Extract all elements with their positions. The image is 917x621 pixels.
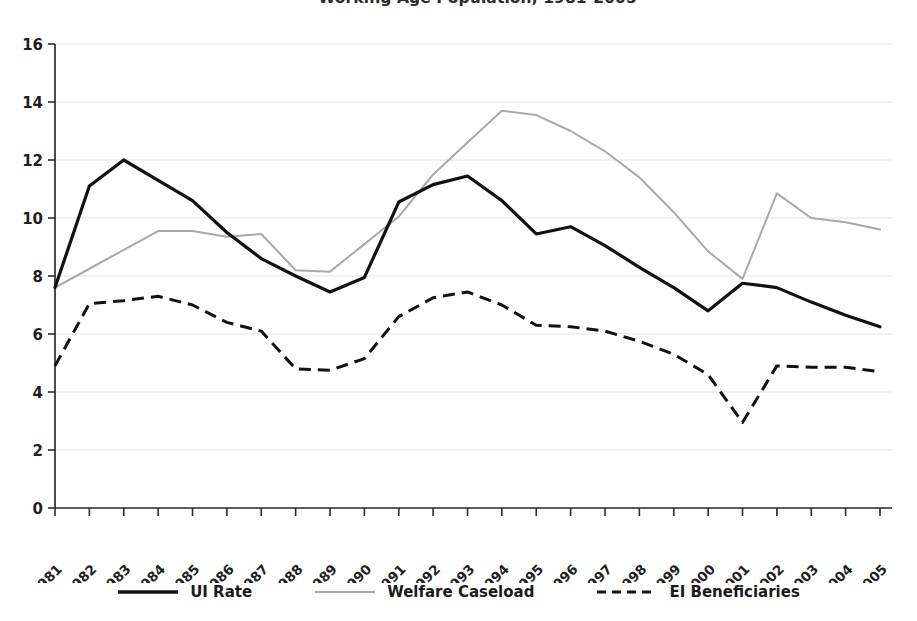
x-axis-tick-label: 1982: [62, 561, 100, 583]
legend-item-ui-rate: UI Rate: [117, 583, 252, 601]
x-axis-tick-label: 1986: [199, 561, 237, 583]
x-axis-tick-label: 2005: [852, 561, 890, 583]
x-axis-tick-label: 1999: [646, 561, 684, 583]
y-axis-tick-label: 10: [22, 210, 43, 228]
x-axis-tick-label: 2003: [783, 561, 821, 583]
x-axis-tick-label: 1994: [474, 561, 512, 583]
series-line-ei-beneficiaries: [55, 292, 880, 423]
y-axis-tick-label: 2: [33, 442, 43, 460]
x-axis-tick-label: 1997: [577, 561, 615, 583]
legend-label-ui-rate: UI Rate: [190, 583, 252, 601]
x-axis-tick-label: 1993: [440, 561, 478, 583]
x-axis-tick-label: 2001: [715, 561, 753, 583]
legend-label-welfare-caseload: Welfare Caseload: [387, 583, 534, 601]
x-axis-ticks: 1981198219831984198519861987198819891990…: [27, 508, 890, 583]
x-axis-tick-label: 2004: [818, 561, 856, 583]
x-axis-tick-label: 1989: [302, 561, 340, 583]
chart-legend: UI Rate Welfare Caseload EI Beneficiarie…: [0, 583, 917, 601]
x-axis-tick-label: 1984: [130, 561, 168, 583]
line-chart: Working Age Population, 1981-2005 024681…: [0, 0, 917, 621]
legend-item-ei-beneficiaries: EI Beneficiaries: [596, 583, 799, 601]
y-axis-tick-label: 0: [33, 500, 43, 518]
x-axis-tick-label: 1983: [96, 561, 134, 583]
x-axis-tick-label: 1985: [165, 561, 203, 583]
x-axis-tick-label: 2000: [680, 561, 718, 583]
x-axis-tick-label: 1992: [405, 561, 443, 583]
x-axis-tick-label: 1991: [371, 561, 409, 583]
y-axis-tick-label: 16: [22, 36, 43, 54]
x-axis-tick-label: 1988: [268, 561, 306, 583]
y-axis-tick-label: 4: [33, 384, 43, 402]
y-axis-tick-label: 12: [22, 152, 43, 170]
x-axis-tick-label: 1987: [233, 561, 271, 583]
x-axis-tick-label: 1995: [508, 561, 546, 583]
legend-label-ei-beneficiaries: EI Beneficiaries: [669, 583, 799, 601]
plot-area: 0246810121416 19811982198319841985198619…: [0, 0, 917, 583]
dashed-black-line-icon: [596, 585, 658, 599]
y-axis-tick-label: 6: [33, 326, 43, 344]
series-line-welfare-caseload: [55, 111, 880, 288]
y-axis-ticks: 0246810121416: [22, 36, 55, 518]
x-axis-tick-label: 2002: [749, 561, 787, 583]
y-axis-tick-label: 8: [33, 268, 43, 286]
gridlines: [55, 44, 892, 508]
solid-gray-line-icon: [314, 585, 376, 599]
y-axis-tick-label: 14: [22, 94, 43, 112]
x-axis-tick-label: 1998: [612, 561, 650, 583]
x-axis-tick-label: 1990: [337, 561, 375, 583]
solid-black-line-icon: [117, 585, 179, 599]
data-series-group: [55, 111, 880, 423]
x-axis-tick-label: 1996: [543, 561, 581, 583]
x-axis-tick-label: 1981: [27, 561, 65, 583]
legend-item-welfare-caseload: Welfare Caseload: [314, 583, 534, 601]
